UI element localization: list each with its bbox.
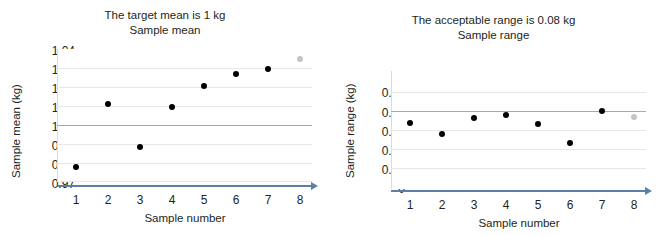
data-point bbox=[73, 164, 79, 170]
x-tick-label: 1 bbox=[60, 194, 92, 206]
gridline bbox=[391, 92, 646, 93]
data-point-faint bbox=[631, 114, 637, 120]
gridline bbox=[57, 68, 312, 69]
x-axis-line bbox=[57, 185, 313, 187]
x-tick-label: 3 bbox=[458, 199, 490, 211]
x-axis-arrow-icon bbox=[311, 182, 318, 190]
x-tick-label: 6 bbox=[220, 194, 252, 206]
sample-range-chart: The acceptable range is 0.08 kg Sample r… bbox=[330, 0, 657, 236]
x-axis-arrow-icon bbox=[645, 187, 652, 195]
data-point bbox=[265, 66, 271, 72]
target-reference-line bbox=[57, 125, 312, 126]
gridline bbox=[57, 144, 312, 145]
gridline bbox=[57, 163, 312, 164]
data-point-faint bbox=[297, 56, 303, 62]
data-point bbox=[407, 120, 413, 126]
sample-range-supertitle: The acceptable range is 0.08 kg bbox=[330, 13, 657, 28]
gridline bbox=[391, 130, 646, 131]
sample-range-plot-area bbox=[391, 71, 646, 189]
x-tick-label: 1 bbox=[394, 199, 426, 211]
data-point bbox=[233, 71, 239, 77]
x-tick-label: 7 bbox=[252, 194, 284, 206]
x-tick-label: 2 bbox=[426, 199, 458, 211]
x-tick-label: 2 bbox=[92, 194, 124, 206]
data-point bbox=[201, 83, 207, 89]
x-tick-label: 6 bbox=[554, 199, 586, 211]
gridline bbox=[57, 181, 312, 182]
x-tick-label: 5 bbox=[522, 199, 554, 211]
x-tick-label: 4 bbox=[156, 194, 188, 206]
x-tick-label: 5 bbox=[188, 194, 220, 206]
x-tick-label: 8 bbox=[618, 199, 650, 211]
data-point bbox=[503, 112, 509, 118]
gridline bbox=[57, 87, 312, 88]
charts-row: The target mean is 1 kg Sample mean Samp… bbox=[0, 0, 657, 236]
sample-mean-chart: The target mean is 1 kg Sample mean Samp… bbox=[0, 0, 330, 236]
sample-mean-x-axis-title: Sample number bbox=[57, 212, 313, 224]
data-point bbox=[169, 104, 175, 110]
gridline bbox=[57, 106, 312, 107]
x-tick-label: 4 bbox=[490, 199, 522, 211]
sample-mean-subtitle: Sample mean bbox=[0, 23, 330, 38]
sample-mean-title-block: The target mean is 1 kg Sample mean bbox=[0, 8, 330, 38]
sample-range-title-block: The acceptable range is 0.08 kg Sample r… bbox=[330, 13, 657, 43]
acceptable-range-reference-line bbox=[391, 111, 646, 112]
gridline bbox=[391, 149, 646, 150]
data-point bbox=[567, 140, 573, 146]
sample-mean-plot-area bbox=[57, 49, 312, 182]
sample-range-subtitle: Sample range bbox=[330, 28, 657, 43]
x-tick-label: 7 bbox=[586, 199, 618, 211]
x-tick-label: 8 bbox=[284, 194, 316, 206]
sample-mean-supertitle: The target mean is 1 kg bbox=[0, 8, 330, 23]
sample-range-x-axis-title: Sample number bbox=[391, 217, 647, 229]
data-point bbox=[137, 144, 143, 150]
gridline bbox=[391, 168, 646, 169]
x-axis-line bbox=[391, 190, 647, 192]
x-tick-label: 3 bbox=[124, 194, 156, 206]
